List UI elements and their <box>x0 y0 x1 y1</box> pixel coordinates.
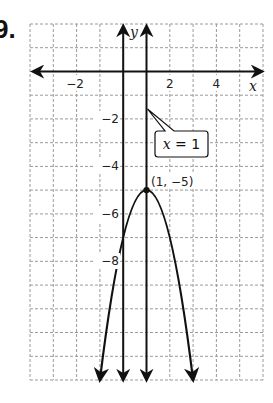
vertex-label: (1, −5) <box>151 175 193 189</box>
y-tick-label: −4 <box>101 159 119 173</box>
x-tick-label: 4 <box>213 77 221 91</box>
callout-text: x = 1 <box>163 136 200 152</box>
x-axis-label: x <box>249 78 257 94</box>
vertex-point <box>143 187 149 193</box>
y-tick-label: −8 <box>101 254 119 268</box>
parabola-graph: −2 2 4 −2 −4 −6 −8 x y (1, −5) x = 1 <box>0 0 273 403</box>
y-tick-label: −6 <box>101 207 119 221</box>
x-tick-label: −2 <box>66 77 84 91</box>
x-tick-label: 2 <box>166 77 174 91</box>
y-axis-label: y <box>129 24 139 40</box>
y-tick-label: −2 <box>101 112 119 126</box>
callout: x = 1 <box>148 109 209 157</box>
